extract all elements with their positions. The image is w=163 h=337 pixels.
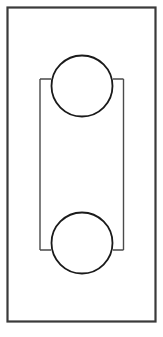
technical-drawing-svg xyxy=(0,0,163,337)
belt-left-run xyxy=(40,79,51,250)
upper-pulley xyxy=(52,56,113,117)
drawing-canvas xyxy=(0,0,163,337)
outer-housing-rectangle xyxy=(8,8,156,322)
lower-pulley xyxy=(52,213,113,274)
belt-right-run xyxy=(113,79,124,250)
